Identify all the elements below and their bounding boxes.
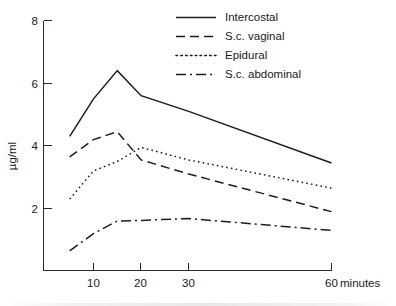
- series-line-sc-abdominal: [70, 219, 332, 251]
- x-tick-label-30: 30: [182, 277, 195, 289]
- series-line-intercostal: [70, 71, 332, 163]
- series-line-epidural: [70, 147, 332, 199]
- x-axis-ticks: 10 20 30 60 minutes: [87, 263, 380, 290]
- series-line-sc-vaginal: [70, 132, 332, 212]
- axes-group: [44, 21, 332, 271]
- y-axis-ticks: 8 6 4 2: [32, 15, 52, 215]
- chart-container: 8 6 4 2 µg/ml 10 20 30 60 minutes: [0, 0, 396, 306]
- legend-item-sc-abdominal: S.c. abdominal: [176, 68, 301, 80]
- legend-label-intercostal: Intercostal: [225, 11, 278, 23]
- y-tick-label-8: 8: [32, 15, 38, 27]
- legend-label-epidural: Epidural: [225, 49, 267, 61]
- series-group: [70, 71, 332, 251]
- line-chart: 8 6 4 2 µg/ml 10 20 30 60 minutes: [0, 0, 396, 306]
- y-tick-label-4: 4: [32, 140, 39, 152]
- y-axis-title: µg/ml: [6, 142, 18, 170]
- legend-label-sc-vaginal: S.c. vaginal: [225, 30, 284, 42]
- x-tick-label-60: 60: [325, 277, 338, 289]
- legend-item-intercostal: Intercostal: [176, 11, 278, 23]
- y-tick-label-2: 2: [32, 203, 38, 215]
- legend-label-sc-abdominal: S.c. abdominal: [225, 68, 301, 80]
- x-tick-label-10: 10: [87, 277, 100, 289]
- legend-item-sc-vaginal: S.c. vaginal: [176, 30, 284, 42]
- y-tick-label-6: 6: [32, 78, 38, 90]
- x-tick-label-20: 20: [134, 277, 147, 289]
- legend-item-epidural: Epidural: [176, 49, 267, 61]
- x-axis-unit-label: minutes: [340, 277, 381, 289]
- chart-legend: Intercostal S.c. vaginal Epidural S.c. a…: [176, 11, 301, 80]
